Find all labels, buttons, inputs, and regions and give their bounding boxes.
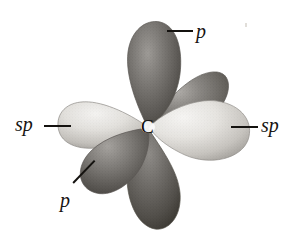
leader-line-sp-right: [231, 126, 258, 128]
leader-line-p-top: [167, 30, 193, 32]
label-sp-left: sp: [15, 114, 33, 134]
label-sp-right: sp: [261, 115, 279, 135]
orbital-diagram-figure: p sp sp p C: [0, 0, 303, 246]
label-p-bottomleft: p: [60, 190, 70, 210]
leader-line-sp-left: [44, 125, 71, 127]
label-p-top: p: [196, 21, 206, 41]
scan-speck-artifact: [245, 23, 247, 27]
label-center-atom-c: C: [141, 117, 154, 136]
